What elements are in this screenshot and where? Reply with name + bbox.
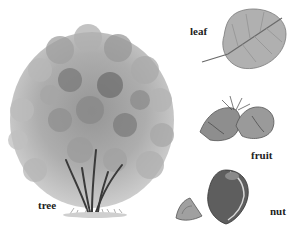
tree-label: tree (38, 200, 56, 211)
fruit-label: fruit (251, 150, 272, 161)
leaf-label: leaf (190, 26, 207, 37)
fruit-illustration (196, 96, 278, 144)
nut-label: nut (270, 206, 286, 217)
leaf-illustration (198, 4, 293, 74)
nut-illustration (170, 166, 260, 228)
tree-illustration (0, 0, 180, 232)
hazel-plant-diagram: tree leaf fruit nut (0, 0, 293, 232)
